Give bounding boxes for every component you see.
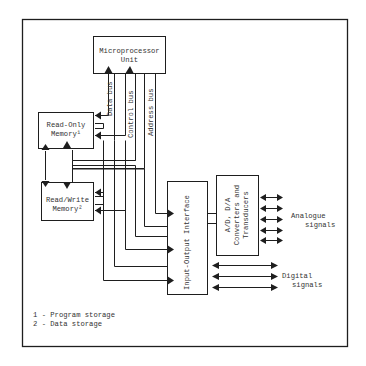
mpu-label-line1: Microprocessor	[93, 47, 166, 56]
digital-signals-label: Digital signals	[282, 272, 322, 290]
digital-line2: signals	[282, 281, 322, 290]
digital-line1: Digital	[282, 272, 322, 281]
rom-label: Read-Only Memory¹	[38, 121, 94, 139]
control-bus-label: Control bus	[127, 91, 136, 138]
adc-label-line2: Converters and	[233, 180, 242, 250]
legend: 1 - Program storage 2 - Data storage	[33, 311, 115, 329]
legend-item-1: 1 - Program storage	[33, 311, 115, 320]
io-label: Input-Output Interface	[183, 195, 192, 290]
ram-label: Read/Write Memory²	[41, 196, 94, 214]
adc-label-line1: A/D, D/A	[224, 180, 233, 250]
analogue-line2: signals	[291, 221, 335, 230]
address-bus-label: Address bus	[147, 89, 156, 136]
analogue-line1: Analogue	[291, 212, 335, 221]
legend-item-2: 2 - Data storage	[33, 320, 115, 329]
mpu-label-line2: Unit	[93, 56, 166, 65]
rom-label-line1: Read-Only	[38, 121, 94, 130]
data-bus-label: Data bus	[106, 81, 115, 116]
rom-label-line2: Memory¹	[38, 130, 94, 139]
adc-label: A/D, D/A Converters and Transducers	[224, 180, 251, 250]
adc-label-line3: Transducers	[242, 180, 251, 250]
analogue-signals-label: Analogue signals	[291, 212, 335, 230]
ram-label-line2: Memory²	[41, 205, 94, 214]
ram-label-line1: Read/Write	[41, 196, 94, 205]
mpu-label: Microprocessor Unit	[93, 47, 166, 65]
